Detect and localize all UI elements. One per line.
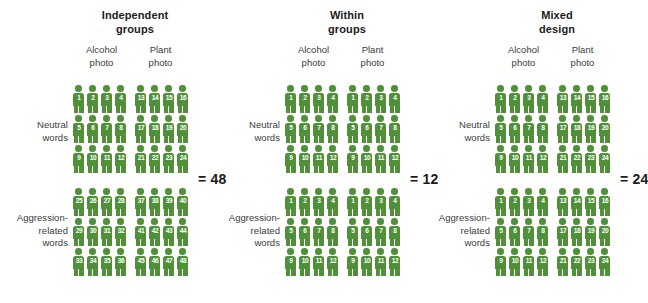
person-head	[315, 248, 322, 255]
person-icon: 3	[522, 187, 536, 217]
participant-number: 26	[86, 197, 100, 204]
participant-number: 5	[284, 124, 298, 131]
person-head	[391, 248, 398, 255]
person-leg-right	[529, 105, 534, 113]
participant-number: 47	[162, 257, 176, 264]
person-head	[165, 248, 172, 255]
person-leg-left	[150, 268, 155, 276]
person-leg-right	[353, 268, 358, 276]
participant-number: 12	[388, 154, 402, 161]
person-head	[315, 115, 322, 122]
person-leg-right	[395, 135, 400, 143]
participant-number: 42	[148, 227, 162, 234]
participant-number: 9	[346, 154, 360, 161]
person-icon: 45	[134, 247, 148, 277]
participant-number: 13	[556, 197, 570, 204]
person-icon: 14	[570, 187, 584, 217]
person-leg-right	[577, 238, 582, 246]
person-leg-right	[395, 165, 400, 173]
person-leg-right	[395, 105, 400, 113]
person-icon: 17	[134, 114, 148, 144]
person-leg-left	[600, 135, 605, 143]
person-head	[329, 218, 336, 225]
person-leg-right	[577, 135, 582, 143]
participant-number: 20	[598, 227, 612, 234]
person-head	[573, 218, 580, 225]
person-leg-right	[367, 238, 372, 246]
person-icon: 31	[100, 217, 114, 247]
person-head	[75, 115, 82, 122]
person-head	[301, 248, 308, 255]
person-head	[179, 115, 186, 122]
person-leg-right	[121, 165, 126, 173]
participant-number: 10	[298, 257, 312, 264]
person-leg-left	[300, 208, 305, 216]
person-leg-right	[93, 165, 98, 173]
person-head	[179, 145, 186, 152]
participant-number: 4	[388, 94, 402, 101]
person-icon: 2	[508, 187, 522, 217]
participant-number: 17	[134, 124, 148, 131]
person-leg-right	[155, 165, 160, 173]
person-leg-left	[362, 208, 367, 216]
person-head	[329, 145, 336, 152]
person-leg-right	[529, 238, 534, 246]
person-leg-right	[367, 165, 372, 173]
person-leg-right	[107, 135, 112, 143]
person-icon: 20	[176, 114, 190, 144]
participant-number: 23	[162, 154, 176, 161]
person-icon: 12	[536, 247, 550, 277]
person-icon: 11	[312, 247, 326, 277]
person-head	[363, 188, 370, 195]
person-leg-left	[178, 268, 183, 276]
person-head	[349, 145, 356, 152]
person-leg-left	[314, 165, 319, 173]
participant-number: 41	[134, 227, 148, 234]
participant-number: 5	[494, 124, 508, 131]
person-leg-right	[515, 268, 520, 276]
person-leg-right	[169, 135, 174, 143]
person-icon: 23	[162, 144, 176, 174]
person-leg-left	[572, 165, 577, 173]
participant-number: 11	[522, 154, 536, 161]
person-leg-left	[328, 238, 333, 246]
person-icon: 6	[508, 114, 522, 144]
person-head	[287, 218, 294, 225]
person-head	[151, 218, 158, 225]
person-leg-left	[496, 105, 501, 113]
participant-number: 1	[72, 94, 86, 101]
block-row-aggression-related-words: 123456789101112131415161718192021222324	[494, 187, 612, 277]
person-icon-row: 1234	[346, 187, 402, 217]
participant-number: 7	[374, 124, 388, 131]
person-head	[391, 85, 398, 92]
person-leg-right	[353, 238, 358, 246]
person-leg-right	[79, 238, 84, 246]
person-leg-right	[333, 238, 338, 246]
person-head	[349, 85, 356, 92]
row-label-column: Neutral wordsAggression- related words	[0, 0, 72, 303]
participant-number: 2	[298, 197, 312, 204]
person-icon: 12	[326, 144, 340, 174]
person-icon: 15	[584, 84, 598, 114]
person-leg-left	[102, 268, 107, 276]
person-icon: 22	[148, 144, 162, 174]
person-leg-left	[116, 165, 121, 173]
person-icon: 37	[134, 187, 148, 217]
person-leg-right	[501, 165, 506, 173]
person-icon: 1	[284, 187, 298, 217]
person-head	[329, 85, 336, 92]
person-head	[587, 248, 594, 255]
block-neutral-plant: 123456789101112	[346, 84, 402, 174]
person-head	[287, 115, 294, 122]
block-neutral-alcohol: 123456789101112	[72, 84, 128, 174]
participant-number: 2	[298, 94, 312, 101]
participant-number: 17	[556, 124, 570, 131]
person-icon: 13	[556, 84, 570, 114]
person-leg-right	[515, 208, 520, 216]
person-icon: 10	[298, 247, 312, 277]
participant-number: 18	[570, 124, 584, 131]
person-leg-left	[572, 208, 577, 216]
person-head	[497, 188, 504, 195]
person-leg-right	[121, 238, 126, 246]
